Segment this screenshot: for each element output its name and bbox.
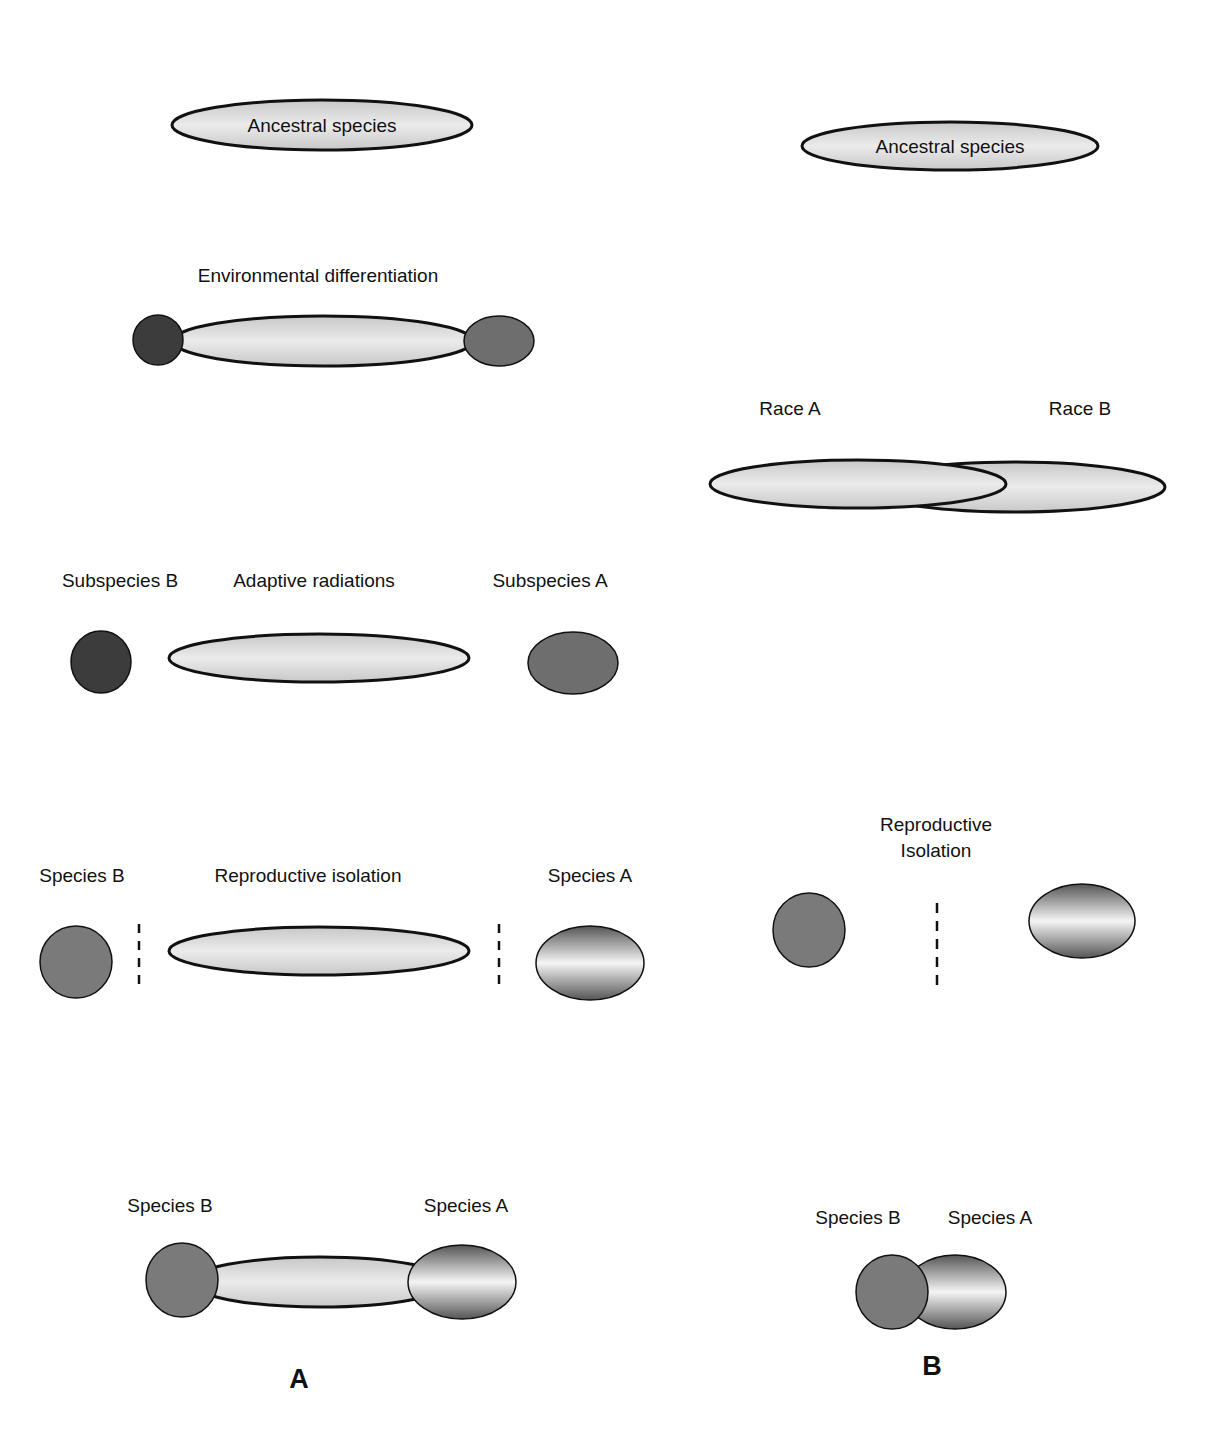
subspecies-a-shape (528, 632, 618, 694)
dark-subpopulation-circle (133, 315, 183, 365)
species-a-label: Species A (948, 1207, 1033, 1228)
species-b-label: Species B (815, 1207, 901, 1228)
adaptive-radiations-label: Adaptive radiations (233, 570, 395, 591)
species-a-label: Species A (548, 865, 633, 886)
speciation-diagram: Ancestral species Environmental differen… (0, 0, 1226, 1453)
species-a-shape (1029, 884, 1135, 958)
subspecies-b-shape (71, 631, 131, 693)
panel-b-ancestral-species: Ancestral species (802, 122, 1098, 170)
panel-b-races: Race A Race B (710, 398, 1165, 512)
race-b-label: Race B (1049, 398, 1111, 419)
panel-a-label: A (289, 1364, 309, 1394)
species-a-shape (536, 926, 644, 1000)
panel-b-sympatric-species: Species B Species A B (815, 1207, 1032, 1381)
subspecies-a-label: Subspecies A (492, 570, 607, 591)
subspecies-b-label: Subspecies B (62, 570, 178, 591)
ancestral-remnant-ellipse (169, 927, 469, 975)
species-b-shape (773, 893, 845, 967)
reproductive-isolation-line1: Reproductive (880, 814, 992, 835)
species-b-shape (40, 926, 112, 998)
species-b-label: Species B (39, 865, 125, 886)
reproductive-isolation-label: Reproductive isolation (215, 865, 402, 886)
species-b-shape (856, 1255, 928, 1329)
population-ellipse (173, 316, 473, 366)
ancestral-species-label: Ancestral species (876, 136, 1025, 157)
panel-a-environmental-differentiation: Environmental differentiation (133, 265, 534, 366)
species-a-shape (408, 1245, 516, 1319)
panel-b: Ancestral species Race A Race B Reproduc… (710, 122, 1165, 1381)
panel-a-reproductive-isolation: Species B Reproductive isolation Species… (39, 865, 644, 1000)
environmental-differentiation-label: Environmental differentiation (198, 265, 438, 286)
panel-a-ancestral-species: Ancestral species (172, 100, 472, 150)
species-b-shape (146, 1243, 218, 1317)
species-a-label: Species A (424, 1195, 509, 1216)
reproductive-isolation-line2: Isolation (901, 840, 972, 861)
ancestral-species-label: Ancestral species (248, 115, 397, 136)
panel-a-secondary-contact: Species B Species A A (127, 1195, 516, 1394)
race-a-label: Race A (759, 398, 821, 419)
species-b-label: Species B (127, 1195, 213, 1216)
panel-b-label: B (922, 1351, 942, 1381)
mid-subpopulation-ellipse (464, 316, 534, 366)
race-a-ellipse (710, 460, 1006, 508)
panel-a-adaptive-radiations: Subspecies B Adaptive radiations Subspec… (62, 570, 618, 694)
panel-a: Ancestral species Environmental differen… (39, 100, 644, 1394)
panel-b-reproductive-isolation: Reproductive Isolation (773, 814, 1135, 992)
ancestral-remnant-ellipse (169, 634, 469, 682)
